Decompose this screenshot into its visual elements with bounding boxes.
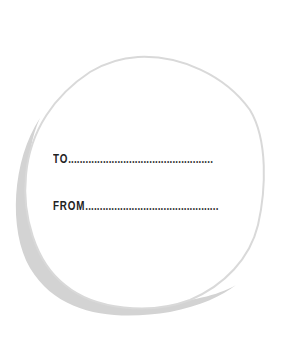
to-label: TO [53,152,68,166]
tag-outline [25,57,264,309]
gift-tag-shape [0,0,288,359]
to-dotted-line[interactable]: ........................................… [68,152,213,166]
from-dotted-line[interactable]: ........................................… [85,199,218,213]
from-line: FROM....................................… [53,199,219,213]
from-label: FROM [53,199,85,213]
to-line: TO......................................… [53,152,213,166]
